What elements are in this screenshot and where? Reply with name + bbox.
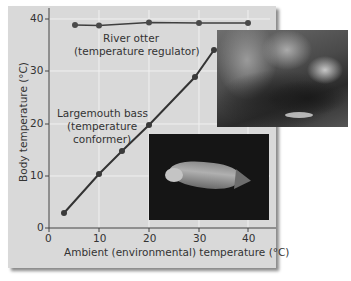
x-axis-label: Ambient (environmental) temperature (°C) — [64, 246, 289, 258]
y-tick-10: 10 — [30, 169, 43, 181]
y-tick-0: 0 — [37, 221, 44, 233]
y-axis-label: Body temperature (°C) — [17, 57, 29, 187]
bass-annotation-line2: (temperature — [67, 120, 137, 132]
otter-annotation-line1: River otter — [103, 32, 159, 44]
otter-annotation-line2: (temperature regulator) — [74, 45, 200, 57]
y-tick-40: 40 — [30, 12, 43, 24]
x-tick-0: 0 — [45, 232, 52, 244]
bass-annotation-line1: Largemouth bass — [57, 107, 148, 119]
x-tick-30: 30 — [193, 232, 206, 244]
river-otter-photo — [217, 30, 348, 127]
y-tick-20: 20 — [30, 117, 43, 129]
x-tick-10: 10 — [93, 232, 106, 244]
y-tick-30: 30 — [30, 64, 43, 76]
bass-annotation-line3: conformer) — [73, 133, 131, 145]
largemouth-bass-photo — [149, 134, 269, 220]
x-tick-20: 20 — [143, 232, 156, 244]
x-tick-40: 40 — [242, 232, 255, 244]
